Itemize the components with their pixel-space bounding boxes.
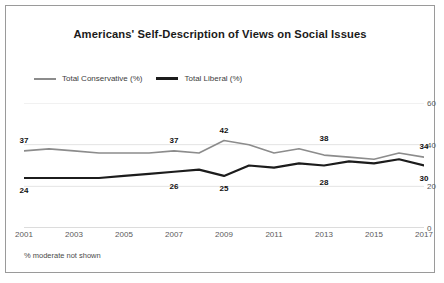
legend-item-liberal[interactable]: Total Liberal (%) [156,74,242,83]
series-line-liberal [24,159,424,178]
line-chart-svg [24,103,424,228]
page-title: Americans' Self-Description of Views on … [6,28,434,40]
x-tick-label: 2013 [315,230,333,239]
x-tick-label: 2005 [115,230,133,239]
legend-label-liberal: Total Liberal (%) [184,74,242,83]
x-tick-label: 2017 [415,230,433,239]
x-tick-label: 2009 [215,230,233,239]
x-tick-label: 2003 [65,230,83,239]
data-point-label: 37 [170,135,179,144]
data-point-label: 28 [320,177,329,186]
legend-item-conservative[interactable]: Total Conservative (%) [34,74,142,83]
legend-line-icon-conservative [34,78,56,80]
chart-footnote: % moderate not shown [24,251,101,260]
x-tick-label: 2007 [165,230,183,239]
data-point-label: 26 [170,181,179,190]
data-point-label: 37 [20,135,29,144]
x-tick-label: 2001 [15,230,33,239]
data-point-label: 25 [220,183,229,192]
data-point-label: 24 [20,186,29,195]
data-point-label: 38 [320,133,329,142]
series-line-conservative [24,141,424,160]
legend-label-conservative: Total Conservative (%) [62,74,142,83]
chart-legend: Total Conservative (%) Total Liberal (%) [34,74,242,83]
data-point-label: 34 [420,142,429,151]
chart-card: Americans' Self-Description of Views on … [5,5,435,273]
legend-line-icon-liberal [156,77,178,80]
x-tick-label: 2011 [265,230,282,239]
x-tick-label: 2015 [365,230,383,239]
data-point-label: 42 [220,125,229,134]
y-tick-label: 60 [427,99,436,108]
plot-area [24,103,424,228]
y-tick-label: 20 [427,182,436,191]
data-point-label: 30 [420,173,429,182]
